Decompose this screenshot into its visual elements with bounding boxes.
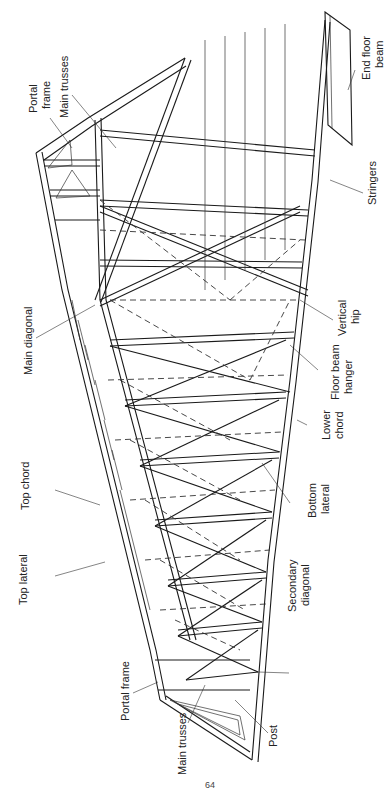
svg-text:frame: frame [40,81,52,109]
label-main-diagonal: Main diagonal [22,307,34,376]
svg-text:Vertical: Vertical [336,300,348,336]
label-top-lateral: Top lateral [17,554,29,605]
svg-text:End floor: End floor [360,36,372,80]
label-portal-frame-top: Portal frame [27,81,52,113]
label-floor-beam-hanger: Floor beam hanger [329,344,354,400]
svg-text:Secondary: Secondary [286,559,298,612]
label-stringers: Stringers [366,160,378,205]
label-bottom-lateral: Bottom lateral [306,483,331,518]
svg-text:diagonal: diagonal [299,564,311,606]
label-end-floor-beam: End floor beam [360,36,385,80]
label-secondary-diagonal: Secondary diagonal [286,559,311,612]
svg-text:Floor beam: Floor beam [329,344,341,400]
svg-text:beam: beam [373,40,385,68]
truss-bridge-diagram: Portal frame Main trusses Main diagonal … [0,0,389,795]
label-lower-chord: Lower chord [320,410,345,440]
svg-text:lateral: lateral [319,484,331,514]
label-top-chord: Top chord [19,462,31,510]
label-vertical-hip: Vertical hip [336,300,361,336]
label-post: Post [267,725,279,747]
bridge-structure [36,12,352,762]
svg-text:chord: chord [333,411,345,439]
labels: Portal frame Main trusses Main diagonal … [17,36,385,775]
label-main-trusses-top: Main trusses [58,55,70,118]
svg-text:hip: hip [349,309,361,324]
svg-text:hanger: hanger [342,359,354,394]
label-portal-frame-bottom: Portal frame [119,661,131,721]
svg-text:Bottom: Bottom [306,483,318,518]
page-number: 64 [205,780,215,790]
label-main-trusses-bottom: Main trusses [176,712,188,775]
svg-text:Lower: Lower [320,410,332,440]
svg-text:Portal: Portal [27,84,39,113]
